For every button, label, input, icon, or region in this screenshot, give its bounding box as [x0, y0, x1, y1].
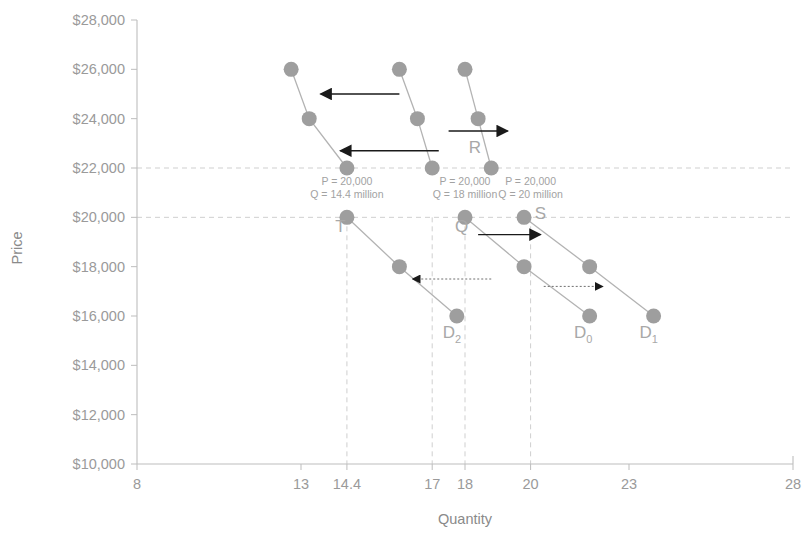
x-tick-label-1: 13: [293, 476, 309, 492]
y-tick-label-1: $12,000: [73, 407, 125, 423]
y-tick-label-0: $10,000: [73, 456, 125, 472]
y-axis-ticks: $10,000$12,000$14,000$16,000$18,000$20,0…: [73, 12, 137, 472]
chart-container: $10,000$12,000$14,000$16,000$18,000$20,0…: [0, 0, 808, 542]
data-point-S1-0: [458, 62, 473, 77]
data-point-D2-2: [449, 309, 464, 324]
ann-left: P = 20,000Q = 14.4 million: [310, 175, 383, 200]
x-tick-label-5: 20: [523, 476, 539, 492]
series-S2: [284, 62, 355, 176]
label-D0-base: D: [574, 323, 586, 342]
data-point-D1-2: [646, 309, 661, 324]
y-tick-label-3: $16,000: [73, 308, 125, 324]
data-point-S2-0: [284, 62, 299, 77]
x-tick-label-0: 8: [133, 476, 141, 492]
supply-demand-chart: $10,000$12,000$14,000$16,000$18,000$20,0…: [0, 0, 808, 542]
data-point-S2-1: [302, 111, 317, 126]
series-S1: [458, 62, 499, 176]
curve-line-S2: [291, 69, 347, 168]
x-tick-label-4: 18: [457, 476, 473, 492]
x-axis-title: Quantity: [438, 511, 493, 527]
label-D1-base: D: [639, 323, 651, 342]
data-point-S1-2: [484, 161, 499, 176]
y-tick-label-4: $18,000: [73, 259, 125, 275]
series-D1: [517, 210, 662, 324]
ann-left-price: P = 20,000: [321, 175, 372, 187]
label-D0-subscript: 0: [586, 333, 592, 345]
label-D1-subscript: 1: [652, 333, 658, 345]
ann-mid-price: P = 20,000: [440, 175, 491, 187]
data-point-D0-2: [582, 309, 597, 324]
series-D0: [458, 210, 598, 324]
data-point-S0-2: [425, 161, 440, 176]
label-D1: D1: [639, 323, 657, 345]
y-tick-label-5: $20,000: [73, 209, 125, 225]
x-tick-label-6: 23: [621, 476, 637, 492]
label-R: R: [469, 138, 481, 157]
ann-right-price: P = 20,000: [505, 175, 556, 187]
data-point-S1-1: [471, 111, 486, 126]
ann-mid: P = 20,000Q = 18 million: [433, 175, 498, 200]
data-point-D0-1: [517, 259, 532, 274]
y-axis-title: Price: [9, 231, 25, 264]
series-S0: [392, 62, 440, 176]
data-point-S2-2: [339, 161, 354, 176]
y-tick-label-8: $26,000: [73, 61, 125, 77]
ann-left-quantity: Q = 14.4 million: [310, 188, 383, 200]
series-D2: [339, 210, 464, 324]
data-point-D2-1: [392, 259, 407, 274]
label-T: T: [335, 217, 345, 236]
x-axis-ticks: 81314.41718202328: [133, 464, 801, 492]
data-point-D1-0: [517, 210, 532, 225]
x-tick-label-3: 17: [424, 476, 440, 492]
data-point-D1-1: [582, 259, 597, 274]
y-tick-label-7: $24,000: [73, 111, 125, 127]
ann-right: P = 20,000Q = 20 million: [498, 175, 563, 200]
label-D2-subscript: 2: [455, 333, 461, 345]
data-point-S0-0: [392, 62, 407, 77]
y-tick-label-2: $14,000: [73, 357, 125, 373]
label-D2-base: D: [443, 323, 455, 342]
label-D2: D2: [443, 323, 461, 345]
y-tick-label-9: $28,000: [73, 12, 125, 28]
label-D0: D0: [574, 323, 592, 345]
label-Q: Q: [455, 217, 468, 236]
data-point-S0-1: [410, 111, 425, 126]
ann-mid-quantity: Q = 18 million: [433, 188, 498, 200]
y-tick-label-6: $22,000: [73, 160, 125, 176]
equilibrium-annotations: P = 20,000Q = 14.4 millionP = 20,000Q = …: [310, 175, 563, 200]
x-tick-label-2: 14.4: [333, 476, 361, 492]
x-tick-label-7: 28: [785, 476, 801, 492]
curve-labels: D2D0D1: [443, 323, 658, 345]
label-S: S: [535, 204, 546, 223]
ann-right-quantity: Q = 20 million: [498, 188, 563, 200]
